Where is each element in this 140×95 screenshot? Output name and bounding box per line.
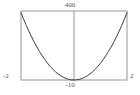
x-axis-min-tick-label: -2 bbox=[3, 72, 9, 80]
y-axis-min-tick-label: -10 bbox=[0, 81, 140, 89]
plot-figure: 400 -10 -2 2 bbox=[0, 0, 140, 95]
x-axis-max-tick-label: 2 bbox=[130, 72, 134, 80]
y-axis-max-tick-label: 400 bbox=[0, 1, 140, 9]
